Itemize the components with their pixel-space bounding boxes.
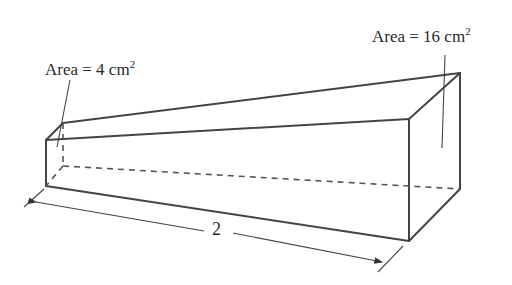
left-area-exponent: 2 [130, 58, 136, 70]
length-label: 2 [212, 219, 221, 240]
right-area-exponent: 2 [465, 25, 471, 37]
left-area-text: Area = 4 cm [45, 60, 130, 79]
right-leader-line [442, 55, 445, 148]
right-area-label: Area = 16 cm2 [372, 25, 471, 47]
right-area-text: Area = 16 cm [372, 27, 465, 46]
left-area-label: Area = 4 cm2 [45, 58, 135, 80]
